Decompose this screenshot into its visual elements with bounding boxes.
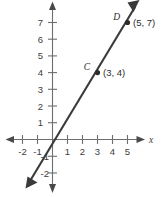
x-axis-right-arrow-icon — [137, 136, 146, 143]
coordinate-plane-svg: -2 -1 1 2 3 4 5 7 6 5 4 3 2 1 -1 -2 x C … — [0, 0, 164, 197]
y-tick-label-7: 7 — [38, 17, 43, 28]
y-tick-label--1: -1 — [41, 151, 49, 162]
x-tick-label-5: 5 — [125, 146, 130, 157]
y-tick-label-3: 3 — [38, 84, 43, 95]
y-tick-label-4: 4 — [38, 67, 43, 78]
y-axis-top-arrow-icon — [49, 2, 56, 11]
point-d-label: D — [112, 12, 120, 22]
x-tick-label-3: 3 — [95, 146, 100, 157]
point-c-label: C — [84, 62, 91, 72]
x-tick-label-1: 1 — [65, 146, 70, 157]
y-axis-bottom-arrow-icon — [49, 184, 56, 193]
y-tick-label--2: -2 — [41, 168, 49, 179]
x-axis-tick-labels: -2 -1 1 2 3 4 5 — [18, 146, 130, 157]
plotted-line-upper-arrow-icon — [128, 0, 140, 12]
x-tick-label-2: 2 — [80, 146, 85, 157]
point-c-dot — [95, 70, 100, 75]
x-axis-left-arrow-icon — [6, 136, 15, 143]
x-tick-label-4: 4 — [110, 146, 115, 157]
point-d-dot — [125, 20, 130, 25]
y-tick-label-2: 2 — [38, 101, 43, 112]
coordinate-graph-figure: -2 -1 1 2 3 4 5 7 6 5 4 3 2 1 -1 -2 x C … — [0, 0, 164, 197]
x-tick-label--2: -2 — [18, 146, 26, 157]
x-axis-label: x — [148, 135, 154, 145]
point-c-coordinates: (3, 4) — [103, 67, 125, 78]
y-tick-label-1: 1 — [38, 117, 43, 128]
y-tick-label-6: 6 — [38, 34, 43, 45]
y-tick-label-5: 5 — [38, 50, 43, 61]
point-d-coordinates: (5, 7) — [133, 17, 155, 28]
